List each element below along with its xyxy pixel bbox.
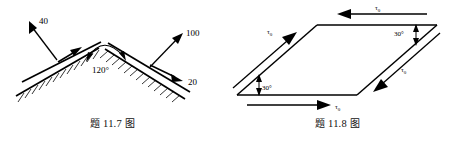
left-member-lower-edge: [16, 48, 99, 96]
shear-arrow-right: [373, 33, 440, 92]
left-member: [16, 42, 101, 96]
caption-prefix-11-7: 题: [90, 118, 100, 129]
shear-arrow-bottom: [247, 100, 331, 110]
angle-label-top-right: 30°: [394, 30, 404, 38]
figure-11-8-canvas: τ0 τ0 τ0 τ0: [225, 0, 450, 115]
force-arrow-100: [150, 33, 183, 67]
shear-label-bottom: τ0: [335, 103, 341, 112]
shear-label-left: τ0: [267, 28, 273, 37]
apex-angle-arc: [86, 45, 126, 62]
caption-num-11-7: 11.7: [103, 118, 122, 129]
figure-11-8: τ0 τ0 τ0 τ0: [225, 0, 450, 141]
angle-label-bottom-left: 30°: [262, 84, 272, 92]
figure-11-7-canvas: 40: [0, 0, 225, 115]
figure-11-8-caption: 题 11.8 图: [225, 115, 450, 130]
angle-mark-top-right: [413, 24, 419, 46]
caption-suffix-11-8: 图: [350, 118, 360, 129]
caption-suffix-11-7: 图: [125, 118, 135, 129]
tau-subscript-right: 0: [404, 70, 407, 75]
right-member-hatching: [100, 51, 180, 102]
edge-left: [237, 25, 317, 95]
tau-subscript-bottom: 0: [338, 107, 341, 112]
force-arrow-40: [29, 21, 57, 60]
tau-subscript-left: 0: [270, 32, 273, 37]
force-label-20: 20: [188, 77, 198, 87]
shear-label-top: τ0: [375, 4, 381, 13]
caption-prefix-11-8: 题: [315, 118, 325, 129]
figure-11-7: 40: [0, 0, 225, 141]
shear-arrow-top: [337, 9, 427, 19]
figure-11-7-caption: 题 11.7 图: [0, 115, 225, 130]
apex-angle-label: 120°: [92, 65, 110, 75]
tau-subscript-top: 0: [378, 8, 381, 13]
force-label-40: 40: [39, 16, 49, 26]
caption-num-11-8: 11.8: [328, 118, 347, 129]
shear-arrow-left: [233, 32, 297, 88]
shear-label-right: τ0: [401, 66, 407, 75]
force-label-100: 100: [186, 28, 200, 38]
figure-sheet: 40: [0, 0, 450, 141]
